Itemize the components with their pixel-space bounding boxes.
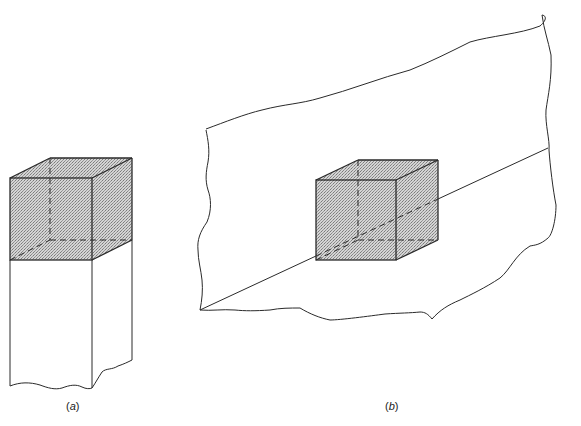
- cube-b: [316, 160, 438, 260]
- panel-b: [198, 15, 556, 320]
- panel-b-label: (b): [385, 400, 398, 412]
- panel-a-label: (a): [66, 400, 79, 412]
- column-body: [10, 240, 132, 389]
- cube-a: [10, 158, 132, 260]
- wavy-side-edge: [92, 360, 132, 388]
- figure-diagram: [0, 0, 581, 426]
- panel-a: [10, 158, 132, 389]
- line-through-cube: [200, 256, 316, 310]
- wavy-bottom-edge: [10, 383, 92, 389]
